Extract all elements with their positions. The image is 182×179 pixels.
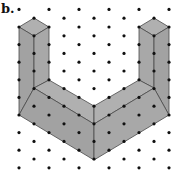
grid-dot xyxy=(17,96,20,99)
grid-dot xyxy=(47,131,50,134)
grid-dot xyxy=(137,166,140,169)
grid-dot xyxy=(32,17,35,20)
grid-dot xyxy=(122,157,125,160)
grid-dot xyxy=(47,78,50,81)
grid-dot xyxy=(152,140,155,143)
grid-dot xyxy=(92,52,95,55)
grid-dot xyxy=(77,149,80,152)
grid-dot xyxy=(62,69,65,72)
grid-dot xyxy=(32,157,35,160)
grid-dot xyxy=(92,87,95,90)
grid-dot xyxy=(92,140,95,143)
grid-dot xyxy=(152,34,155,37)
grid-dot xyxy=(92,122,95,125)
grid-dot xyxy=(152,157,155,160)
grid-dot xyxy=(167,78,170,81)
grid-dot xyxy=(137,131,140,134)
grid-dot xyxy=(167,149,170,152)
grid-dot xyxy=(17,149,20,152)
grid-dot xyxy=(107,149,110,152)
grid-dot xyxy=(77,8,80,11)
grid-dot xyxy=(122,122,125,125)
grid-dot xyxy=(47,61,50,64)
grid-dot xyxy=(107,43,110,46)
grid-dot xyxy=(47,25,50,28)
grid-dot xyxy=(107,61,110,64)
grid-dot xyxy=(122,34,125,37)
grid-dot xyxy=(107,8,110,11)
grid-dot xyxy=(77,131,80,134)
left-tower-side-face xyxy=(34,27,49,88)
grid-dot xyxy=(32,140,35,143)
grid-dot xyxy=(137,149,140,152)
grid-dot xyxy=(167,25,170,28)
grid-dot xyxy=(47,8,50,11)
grid-dot xyxy=(47,96,50,99)
grid-dot xyxy=(92,17,95,20)
grid-dot xyxy=(32,69,35,72)
grid-dot xyxy=(122,87,125,90)
grid-dot xyxy=(137,25,140,28)
grid-dot xyxy=(62,140,65,143)
grid-dot xyxy=(137,78,140,81)
grid-dot xyxy=(77,166,80,169)
grid-dot xyxy=(32,34,35,37)
grid-dot xyxy=(137,43,140,46)
grid-dot xyxy=(47,166,50,169)
grid-dot xyxy=(152,52,155,55)
grid-dot xyxy=(77,78,80,81)
grid-dot xyxy=(17,131,20,134)
grid-dot xyxy=(62,157,65,160)
grid-dot xyxy=(107,78,110,81)
grid-dot xyxy=(62,17,65,20)
grid-dot xyxy=(77,61,80,64)
grid-dot xyxy=(47,43,50,46)
grid-dot xyxy=(167,166,170,169)
grid-dot xyxy=(32,122,35,125)
grid-dot xyxy=(47,113,50,116)
grid-dot xyxy=(137,96,140,99)
grid-dot xyxy=(122,52,125,55)
grid-dot xyxy=(122,140,125,143)
grid-dot xyxy=(77,25,80,28)
grid-dot xyxy=(167,8,170,11)
grid-dot xyxy=(167,43,170,46)
grid-dot xyxy=(152,17,155,20)
grid-dot xyxy=(122,105,125,108)
grid-dot xyxy=(17,43,20,46)
grid-dot xyxy=(152,122,155,125)
grid-dot xyxy=(167,61,170,64)
grid-dot xyxy=(17,113,20,116)
grid-dot xyxy=(122,17,125,20)
grid-dot xyxy=(92,34,95,37)
grid-dot xyxy=(107,25,110,28)
grid-dot xyxy=(17,166,20,169)
grid-dot xyxy=(122,69,125,72)
grid-dot xyxy=(32,105,35,108)
grid-dot xyxy=(137,113,140,116)
grid-dot xyxy=(92,69,95,72)
grid-dot xyxy=(107,131,110,134)
grid-dot xyxy=(167,113,170,116)
right-tower-side-face xyxy=(139,27,154,88)
grid-dot xyxy=(167,96,170,99)
grid-dot xyxy=(17,78,20,81)
grid-dot xyxy=(17,61,20,64)
grid-dot xyxy=(92,105,95,108)
grid-dot xyxy=(62,105,65,108)
grid-dot xyxy=(17,25,20,28)
grid-dot xyxy=(62,87,65,90)
grid-dot xyxy=(62,52,65,55)
grid-dot xyxy=(77,43,80,46)
grid-dot xyxy=(152,69,155,72)
grid-dot xyxy=(77,113,80,116)
grid-dot xyxy=(107,166,110,169)
grid-dot xyxy=(167,131,170,134)
grid-dot xyxy=(62,122,65,125)
grid-dot xyxy=(152,105,155,108)
grid-dot xyxy=(32,87,35,90)
grid-dot xyxy=(77,96,80,99)
grid-dot xyxy=(107,96,110,99)
grid-dot xyxy=(17,8,20,11)
grid-dot xyxy=(137,8,140,11)
